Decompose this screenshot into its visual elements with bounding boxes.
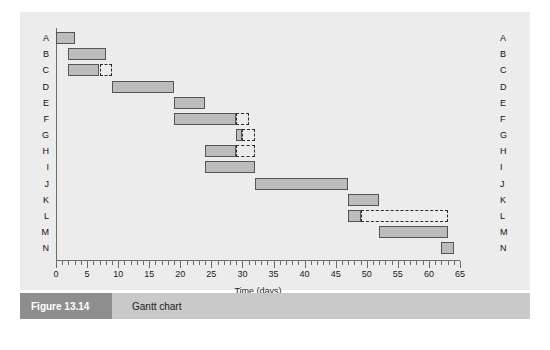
x-axis-minor-tick [311, 261, 312, 265]
task-row-label-left: K [43, 195, 49, 205]
gantt-task-bar[interactable] [56, 32, 75, 44]
gantt-task-bar[interactable] [441, 242, 453, 254]
x-axis-tick-label: 45 [331, 269, 341, 279]
x-axis-major-tick [274, 261, 275, 268]
gantt-float-bar[interactable] [236, 113, 248, 125]
x-axis-minor-tick [230, 261, 231, 265]
x-axis-minor-tick [224, 261, 225, 265]
x-axis-minor-tick [205, 261, 206, 265]
x-axis-minor-tick [454, 261, 455, 265]
gantt-task-bar[interactable] [348, 210, 360, 222]
task-row-label-left: M [42, 227, 50, 237]
gantt-task-bar[interactable] [348, 194, 379, 206]
gantt-task-bar[interactable] [174, 97, 205, 109]
x-axis-minor-tick [435, 261, 436, 265]
x-axis-minor-tick [392, 261, 393, 265]
gantt-float-bar[interactable] [100, 64, 112, 76]
figure-caption-text: Gantt chart [112, 293, 530, 319]
gantt-float-bar[interactable] [361, 210, 448, 222]
x-axis-major-tick [180, 261, 181, 268]
x-axis-minor-tick [168, 261, 169, 265]
x-axis-minor-tick [112, 261, 113, 265]
x-axis-minor-tick [218, 261, 219, 265]
gantt-task-bar[interactable] [255, 178, 348, 190]
figure-caption-bar: Figure 13.14 Gantt chart [20, 293, 530, 319]
x-axis-major-tick [398, 261, 399, 268]
task-row-label-right: M [500, 227, 508, 237]
x-axis-minor-tick [75, 261, 76, 265]
task-row-label-left: A [43, 33, 49, 43]
x-axis-major-tick [56, 261, 57, 268]
task-row-label-right: K [500, 195, 506, 205]
x-axis-minor-tick [68, 261, 69, 265]
task-row-label-left: J [45, 179, 50, 189]
task-row-label-left: D [43, 82, 50, 92]
x-axis-minor-tick [255, 261, 256, 265]
gantt-task-bar[interactable] [112, 81, 174, 93]
x-axis-minor-tick [448, 261, 449, 265]
x-axis-minor-tick [385, 261, 386, 265]
task-row-label-right: N [500, 243, 507, 253]
x-axis-major-tick [211, 261, 212, 268]
y-axis-line [56, 28, 57, 260]
x-axis-minor-tick [317, 261, 318, 265]
x-axis-minor-tick [100, 261, 101, 265]
x-axis-minor-tick [162, 261, 163, 265]
task-row-label-right: B [500, 49, 506, 59]
x-axis-line [56, 260, 460, 261]
x-axis-minor-tick [354, 261, 355, 265]
x-axis-minor-tick [441, 261, 442, 265]
task-row-label-right: A [500, 33, 506, 43]
x-axis-minor-tick [261, 261, 262, 265]
x-axis-minor-tick [187, 261, 188, 265]
task-row-label-right: F [500, 114, 506, 124]
x-axis-major-tick [242, 261, 243, 268]
task-row-label-right: G [500, 130, 507, 140]
figure-number-label: Figure 13.14 [20, 293, 112, 319]
x-axis-major-tick [367, 261, 368, 268]
task-row-label-right: I [500, 162, 503, 172]
gantt-task-bar[interactable] [205, 145, 236, 157]
x-axis-minor-tick [323, 261, 324, 265]
x-axis-major-tick [149, 261, 150, 268]
gantt-task-bar[interactable] [205, 161, 255, 173]
x-axis-minor-tick [93, 261, 94, 265]
task-row-label-right: E [500, 98, 506, 108]
x-axis-minor-tick [199, 261, 200, 265]
x-axis-minor-tick [81, 261, 82, 265]
x-axis-tick-label: 15 [144, 269, 154, 279]
task-row-label-left: B [43, 49, 49, 59]
gantt-task-bar[interactable] [68, 64, 99, 76]
x-axis-tick-label: 30 [237, 269, 247, 279]
x-axis-minor-tick [124, 261, 125, 265]
x-axis-minor-tick [249, 261, 250, 265]
x-axis-tick-label: 25 [206, 269, 216, 279]
gantt-task-bar[interactable] [236, 129, 242, 141]
task-row-label-right: C [500, 65, 507, 75]
x-axis-minor-tick [62, 261, 63, 265]
gantt-task-bar[interactable] [174, 113, 236, 125]
x-axis-minor-tick [137, 261, 138, 265]
gantt-float-bar[interactable] [242, 129, 254, 141]
x-axis-minor-tick [373, 261, 374, 265]
gantt-task-bar[interactable] [68, 48, 105, 60]
x-axis-minor-tick [298, 261, 299, 265]
gantt-task-bar[interactable] [379, 226, 447, 238]
x-axis-minor-tick [379, 261, 380, 265]
x-axis-minor-tick [348, 261, 349, 265]
task-row-label-right: L [500, 211, 505, 221]
x-axis-major-tick [305, 261, 306, 268]
x-axis-major-tick [118, 261, 119, 268]
gantt-float-bar[interactable] [236, 145, 255, 157]
x-axis-tick-label: 65 [455, 269, 465, 279]
x-axis-tick-label: 10 [113, 269, 123, 279]
x-axis-tick-label: 55 [393, 269, 403, 279]
x-axis-minor-tick [329, 261, 330, 265]
x-axis-tick-label: 60 [424, 269, 434, 279]
x-axis-tick-label: 50 [362, 269, 372, 279]
x-axis-minor-tick [106, 261, 107, 265]
x-axis-minor-tick [423, 261, 424, 265]
x-axis-major-tick [87, 261, 88, 268]
x-axis-minor-tick [174, 261, 175, 265]
x-axis-tick-label: 20 [175, 269, 185, 279]
